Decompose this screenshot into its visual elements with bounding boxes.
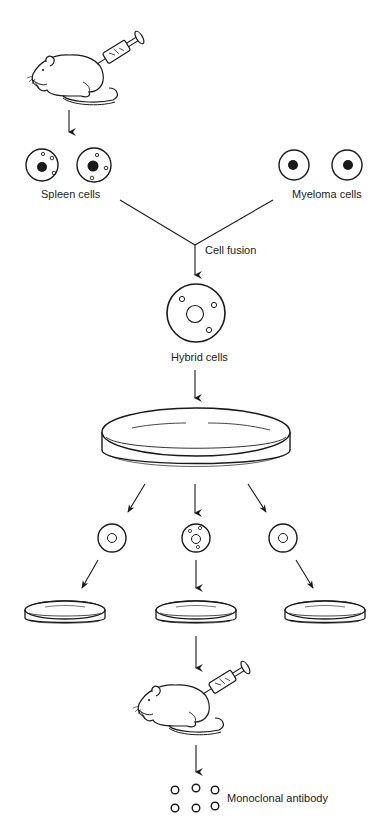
petri-dish-icon	[25, 601, 105, 623]
clone-cell-icon	[269, 524, 297, 552]
fusion-lines	[120, 200, 273, 275]
spleen-cells-label: Spleen cells	[41, 188, 100, 200]
arrow-left	[128, 484, 145, 512]
cell-fusion-label: Cell fusion	[205, 244, 256, 256]
monoclonal-antibody-label: Monoclonal antibody	[227, 792, 328, 804]
arrow-right	[296, 560, 313, 588]
myeloma-cell-icon	[332, 150, 362, 180]
hybrid-cell-icon	[167, 284, 225, 342]
arrow-right	[248, 484, 266, 512]
antibody-circle-icon	[171, 784, 219, 812]
spleen-cell-icon	[77, 148, 111, 182]
arrow-left	[82, 560, 98, 588]
mouse-with-syringe-icon	[27, 30, 146, 105]
diagram-canvas	[0, 0, 384, 831]
petri-dish-icon	[156, 601, 236, 623]
clone-cell-icon	[98, 524, 126, 552]
petri-dish-icon	[285, 601, 365, 623]
myeloma-cells-label: Myeloma cells	[292, 188, 362, 200]
spleen-cell-icon	[26, 149, 58, 181]
petri-dish-icon	[102, 408, 290, 467]
mouse-with-syringe-icon	[133, 660, 252, 735]
myeloma-cell-icon	[279, 150, 309, 180]
hybrid-clone-cell-icon	[182, 524, 210, 552]
hybrid-cells-label: Hybrid cells	[171, 351, 228, 363]
